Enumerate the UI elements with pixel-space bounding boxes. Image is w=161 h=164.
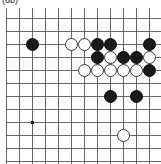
go-diagram-figure: (6b) <box>0 0 161 164</box>
star-point <box>31 121 34 124</box>
white-stone[interactable] <box>91 64 104 77</box>
go-board[interactable] <box>0 8 161 164</box>
figure-caption: (6b) <box>2 0 18 5</box>
white-stone[interactable] <box>143 51 156 64</box>
white-stone[interactable] <box>65 38 78 51</box>
black-stone[interactable] <box>143 64 156 77</box>
black-stone[interactable] <box>130 90 143 103</box>
black-stone[interactable] <box>91 51 104 64</box>
white-stone[interactable] <box>78 64 91 77</box>
white-stone[interactable] <box>117 129 130 142</box>
black-stone[interactable] <box>143 38 156 51</box>
white-stone[interactable] <box>104 64 117 77</box>
black-stone[interactable] <box>104 90 117 103</box>
board-grid <box>0 8 161 164</box>
black-stone[interactable] <box>91 38 104 51</box>
black-stone[interactable] <box>130 51 143 64</box>
white-stone[interactable] <box>104 51 117 64</box>
black-stone[interactable] <box>26 38 39 51</box>
black-stone[interactable] <box>104 38 117 51</box>
black-stone[interactable] <box>117 51 130 64</box>
white-stone[interactable] <box>117 64 130 77</box>
white-stone[interactable] <box>78 38 91 51</box>
white-stone[interactable] <box>130 64 143 77</box>
